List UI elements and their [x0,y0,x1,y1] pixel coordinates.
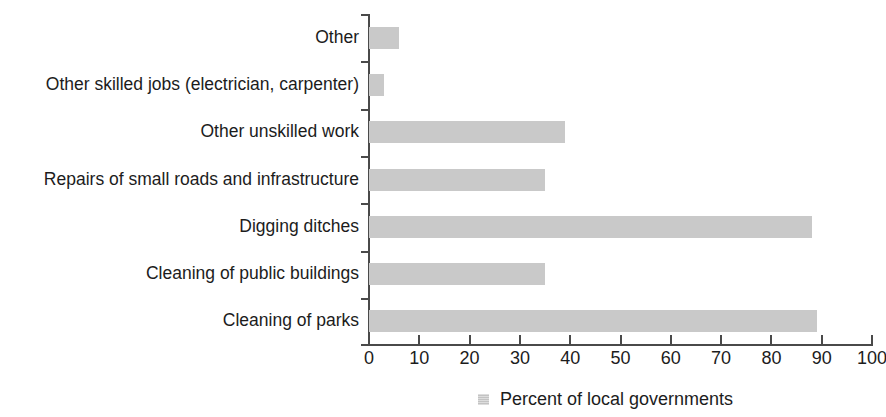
x-tick-label: 40 [560,349,580,367]
x-tick-mark [368,335,370,345]
x-tick-label: 70 [711,349,731,367]
bar-band [369,156,872,203]
x-tick-label: 80 [761,349,781,367]
bar [369,74,384,96]
category-label: Cleaning of public buildings [0,265,359,283]
x-tick-mark [418,335,420,345]
bar-band [369,14,872,61]
x-tick-mark [871,335,873,345]
x-tick-mark [569,335,571,345]
bar [369,216,812,238]
legend-label: Percent of local governments [500,390,733,408]
horizontal-bar-chart: OtherOther skilled jobs (electrician, ca… [0,0,886,417]
x-tick-label: 20 [460,349,480,367]
bar [369,310,817,332]
x-tick-label: 30 [510,349,530,367]
y-tick-mark [361,109,370,111]
x-tick-mark [821,335,823,345]
bar-band [369,109,872,156]
bar [369,121,565,143]
x-tick-label: 10 [409,349,429,367]
category-label: Other skilled jobs (electrician, carpent… [0,76,359,94]
chart-legend: Percent of local governments [478,390,733,408]
y-tick-mark [361,251,370,253]
bar-band [369,61,872,108]
x-tick-mark [519,335,521,345]
bar [369,263,545,285]
x-tick-mark [620,335,622,345]
y-tick-mark [361,61,370,63]
category-label: Other [0,29,359,47]
bar-band [369,203,872,250]
x-tick-label: 50 [610,349,630,367]
y-tick-mark [361,14,370,16]
category-label: Digging ditches [0,218,359,236]
bar-band [369,251,872,298]
category-label: Other unskilled work [0,123,359,141]
legend-swatch-icon [478,394,489,405]
bar [369,169,545,191]
category-label: Repairs of small roads and infrastructur… [0,171,359,189]
bar [369,27,399,49]
y-tick-mark [361,156,370,158]
x-tick-label: 90 [812,349,832,367]
y-tick-mark [361,298,370,300]
x-tick-mark [469,335,471,345]
x-tick-label: 100 [857,349,886,367]
x-tick-label: 0 [364,349,374,367]
x-tick-mark [670,335,672,345]
x-tick-mark [770,335,772,345]
category-label: Cleaning of parks [0,312,359,330]
y-tick-mark [361,203,370,205]
x-tick-label: 60 [661,349,681,367]
x-tick-mark [720,335,722,345]
